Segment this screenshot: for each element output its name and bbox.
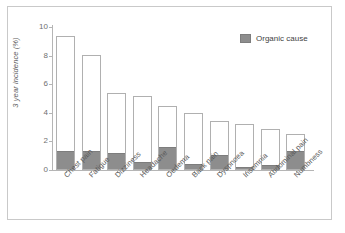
y-tick-mark-10 — [49, 27, 52, 28]
y-tick-mark-2 — [49, 141, 52, 142]
y-tick-label-8: 8 — [34, 52, 48, 60]
y-tick-label-2: 2 — [34, 137, 48, 145]
y-axis-line — [52, 25, 53, 171]
y-tick-mark-4 — [49, 113, 52, 114]
figure-container: 3 year incidence (%) 0246810 Chest painF… — [0, 0, 345, 233]
y-tick-2: 2 — [32, 137, 48, 145]
y-tick-label-10: 10 — [34, 23, 48, 31]
chart-legend: Organic cause — [240, 34, 308, 43]
y-tick-6: 6 — [32, 80, 48, 88]
y-tick-label-6: 6 — [34, 80, 48, 88]
bar-chest-pain — [56, 36, 75, 170]
y-tick-10: 10 — [32, 23, 48, 31]
bar-dizziness — [107, 93, 126, 170]
y-tick-mark-8 — [49, 56, 52, 57]
y-tick-8: 8 — [32, 52, 48, 60]
legend-label-organic-cause: Organic cause — [256, 34, 308, 43]
y-tick-mark-6 — [49, 84, 52, 85]
y-tick-4: 4 — [32, 109, 48, 117]
legend-swatch-organic-cause — [240, 34, 251, 43]
y-tick-mark-0 — [49, 170, 52, 171]
y-axis-label: 3 year incidence (%) — [11, 35, 20, 111]
y-tick-label-4: 4 — [34, 109, 48, 117]
y-tick-0: 0 — [32, 166, 48, 174]
y-tick-label-0: 0 — [34, 166, 48, 174]
chart-plot-area: 3 year incidence (%) 0246810 Chest painF… — [0, 0, 345, 233]
